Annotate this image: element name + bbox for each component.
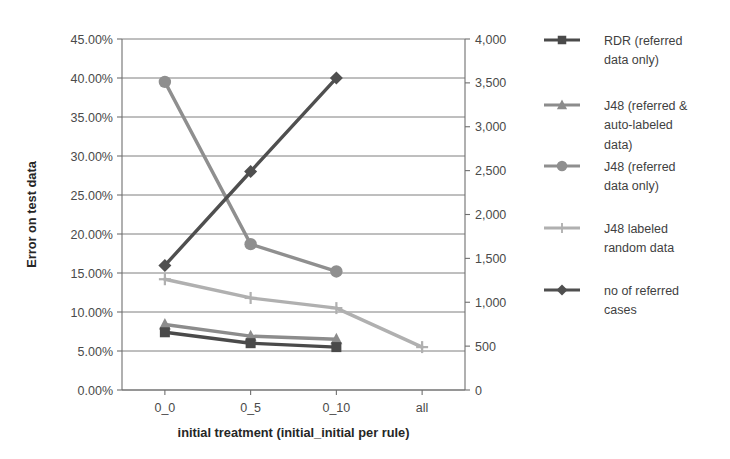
legend-item[interactable]: J48 (referreddata only)	[544, 160, 676, 194]
y-axis-tick-label: 15.00%	[71, 267, 113, 281]
y-axis-tick-label: 0.00%	[78, 384, 113, 398]
y2-axis-tick-label: 3,500	[475, 76, 506, 90]
y2-axis-tick-label: 2,500	[475, 164, 506, 178]
legend-item-label: J48 (referred &	[604, 99, 688, 113]
y-axis-tick-label: 35.00%	[71, 111, 113, 125]
legend-item-label: data only)	[604, 53, 659, 67]
chart-container: 0.00%5.00%10.00%15.00%20.00%25.00%30.00%…	[0, 0, 730, 459]
y2-axis-tick-label: 4,000	[475, 33, 506, 47]
legend-item[interactable]: J48 labeledrandom data	[544, 222, 674, 256]
marker-circle	[244, 238, 256, 250]
legend-item-label: cases	[604, 303, 637, 317]
x-axis-category-label: 0_0	[154, 401, 175, 415]
marker-circle	[330, 265, 342, 277]
y-axis-tick-label: 20.00%	[71, 228, 113, 242]
legend-item-label: random data	[604, 241, 674, 255]
marker-square	[160, 327, 170, 337]
legend-item-label: data)	[604, 138, 633, 152]
y2-axis-tick-label: 3,000	[475, 120, 506, 134]
marker-circle	[159, 76, 171, 88]
y2-axis-tick-label: 1,500	[475, 252, 506, 266]
legend-item[interactable]: no of referredcases	[544, 284, 679, 318]
y-axis-tick-label: 30.00%	[71, 150, 113, 164]
y-axis-title: Error on test data	[24, 160, 39, 268]
legend-item[interactable]: J48 (referred &auto-labeleddata)	[544, 99, 688, 152]
y-axis-tick-label: 45.00%	[71, 33, 113, 47]
y2-axis-tick-label: 0	[475, 384, 482, 398]
legend-item-label: data only)	[604, 179, 659, 193]
series-3	[159, 273, 428, 353]
legend-item[interactable]: RDR (referreddata only)	[544, 34, 683, 68]
marker-diamond	[556, 284, 567, 295]
y2-axis-tick-label: 2,000	[475, 208, 506, 222]
legend-item-label: J48 labeled	[604, 222, 668, 236]
x-axis-title: initial treatment (initial_initial per r…	[178, 425, 410, 440]
y-axis-tick-label: 5.00%	[78, 345, 113, 359]
y2-axis-tick-label: 500	[475, 340, 496, 354]
marker-square	[558, 36, 567, 45]
legend-item-label: RDR (referred	[604, 34, 683, 48]
legend-item-label: auto-labeled	[604, 118, 673, 132]
y-axis-tick-label: 40.00%	[71, 72, 113, 86]
y2-axis-tick-label: 1,000	[475, 296, 506, 310]
line-chart: 0.00%5.00%10.00%15.00%20.00%25.00%30.00%…	[0, 0, 730, 459]
legend-item-label: J48 (referred	[604, 160, 676, 174]
y-axis-tick-label: 25.00%	[71, 189, 113, 203]
marker-circle	[557, 161, 568, 172]
marker-square	[246, 338, 256, 348]
x-axis-category-label: 0_10	[322, 401, 350, 415]
marker-square	[331, 342, 341, 352]
x-axis-category-label: all	[416, 401, 429, 415]
x-axis-category-label: 0_5	[240, 401, 261, 415]
y-axis-tick-label: 10.00%	[71, 306, 113, 320]
legend-item-label: no of referred	[604, 284, 679, 298]
